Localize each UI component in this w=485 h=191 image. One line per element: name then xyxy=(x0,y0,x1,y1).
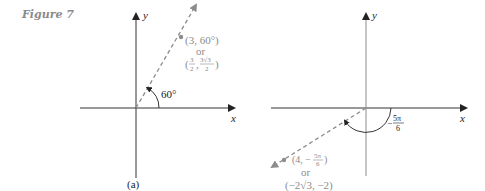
svg-text:3√3: 3√3 xyxy=(200,56,211,64)
point-rect-a: ( 3 2 , 3√3 2 ) xyxy=(185,56,219,73)
x-label-b: x xyxy=(459,112,465,124)
point-marker-a xyxy=(179,35,183,39)
angle-label-a: 60° xyxy=(161,88,176,100)
y-label-b: y xyxy=(371,9,377,21)
svg-text:(: ( xyxy=(185,58,189,71)
comma: , xyxy=(196,58,199,70)
svg-text:5π: 5π xyxy=(314,152,322,160)
svg-text:(4, −: (4, − xyxy=(292,154,311,166)
caption-a: (a) xyxy=(127,178,140,191)
point-marker-b xyxy=(282,158,286,162)
svg-text:): ) xyxy=(324,154,327,166)
svg-text:): ) xyxy=(215,58,219,71)
svg-text:6: 6 xyxy=(396,124,400,133)
svg-text:3: 3 xyxy=(190,56,194,64)
svg-text:−: − xyxy=(387,118,392,128)
svg-text:2: 2 xyxy=(205,65,209,73)
angle-arc-b xyxy=(345,108,391,132)
svg-text:5π: 5π xyxy=(393,114,401,123)
y-label-a: y xyxy=(142,9,148,21)
point-rect-b: (−2√3, −2) xyxy=(285,179,333,191)
svg-text:2: 2 xyxy=(190,65,194,73)
panel-a: x y 60° (3, 60°) or ( 3 2 , 3√3 2 ) (a) xyxy=(80,5,236,191)
or-label-b: or xyxy=(301,166,311,178)
panel-b: x y − 5π 6 (4, − 5π 6 ) or (−2√3, −2) xyxy=(271,9,466,191)
svg-text:6: 6 xyxy=(316,160,320,168)
x-label-a: x xyxy=(230,112,236,124)
polar-coordinates-diagram: x y 60° (3, 60°) or ( 3 2 , 3√3 2 ) (a) … xyxy=(0,0,485,191)
angle-arc-a xyxy=(148,88,160,108)
